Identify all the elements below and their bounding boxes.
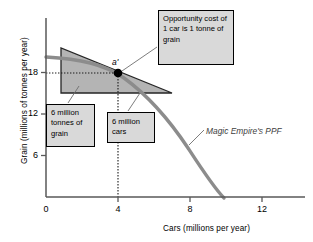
x-axis-title: Cars (millions per year) <box>163 224 250 233</box>
x-tick-label-12: 12 <box>252 204 272 214</box>
point-a-prime-label: a' <box>112 57 118 67</box>
leader-line-ppf <box>189 130 204 145</box>
callout-opportunity-cost: Opportunity cost of 1 car is 1 tonne of … <box>158 10 234 65</box>
leader-line-opportunity <box>122 47 157 71</box>
callout-cars-quantity: 6 million cars <box>107 112 155 143</box>
x-tick-label-0: 0 <box>36 204 56 214</box>
callout-grain-quantity: 6 million tonnes of grain <box>46 104 95 147</box>
point-a-prime-marker <box>114 69 123 78</box>
ppf-curve-label: Magic Empire's PPF <box>206 126 282 136</box>
x-tick-label-8: 8 <box>180 204 200 214</box>
x-tick-label-4: 4 <box>108 204 128 214</box>
ppf-figure: 18 12 6 0 4 8 12 Grain (millions of tonn… <box>0 0 313 242</box>
y-axis-title: Grain (millions of tonnes per year) <box>20 21 29 181</box>
leader-line-cars <box>128 93 140 111</box>
